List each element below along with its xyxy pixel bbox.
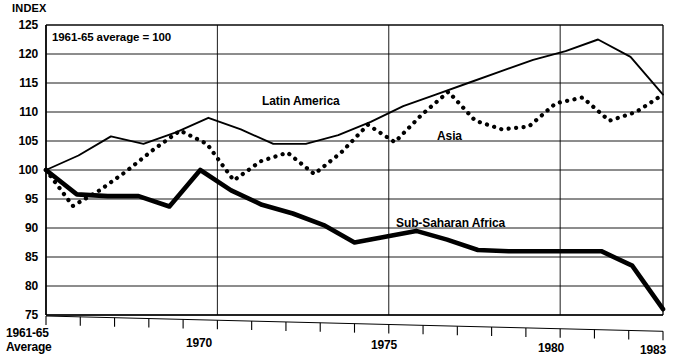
x-tick-label-1980: 1980 <box>538 341 564 355</box>
y-tick-label-120: 120 <box>6 47 38 61</box>
index-line-chart: INDEX 125 120 115 110 105 100 95 90 85 8… <box>0 0 680 363</box>
y-tick-label-105: 105 <box>6 134 38 148</box>
x-tick-label-baseline: 1961-65 Average <box>6 326 52 354</box>
plot-area <box>0 0 680 363</box>
y-tick-label-90: 90 <box>6 221 38 235</box>
x-tick-label-baseline-line2: Average <box>6 340 52 354</box>
x-tick-label-1983: 1983 <box>640 343 666 357</box>
series-line-latin-america <box>46 40 663 171</box>
y-tick-label-110: 110 <box>6 105 38 119</box>
y-tick-label-115: 115 <box>6 76 38 90</box>
gridlines <box>46 25 663 315</box>
y-axis-title: INDEX <box>12 2 47 14</box>
baseline-note: 1961-65 average = 100 <box>52 31 171 43</box>
series-line-sub-saharan-africa <box>46 170 663 309</box>
y-tick-label-95: 95 <box>6 192 38 206</box>
data-series <box>46 40 663 310</box>
x-tick-label-1975: 1975 <box>371 338 397 352</box>
x-tick-label-baseline-line1: 1961-65 <box>6 326 52 340</box>
series-label-latin-america: Latin America <box>262 94 340 108</box>
axis-ticks <box>46 316 663 340</box>
series-line-asia <box>46 92 663 206</box>
y-tick-label-100: 100 <box>6 163 38 177</box>
y-tick-label-80: 80 <box>6 279 38 293</box>
series-label-sub-saharan-africa: Sub-Saharan Africa <box>396 216 505 230</box>
series-label-asia: Asia <box>437 129 462 143</box>
y-tick-label-75: 75 <box>6 308 38 322</box>
x-tick-label-1970: 1970 <box>186 336 212 350</box>
y-tick-label-85: 85 <box>6 250 38 264</box>
y-tick-label-125: 125 <box>6 18 38 32</box>
